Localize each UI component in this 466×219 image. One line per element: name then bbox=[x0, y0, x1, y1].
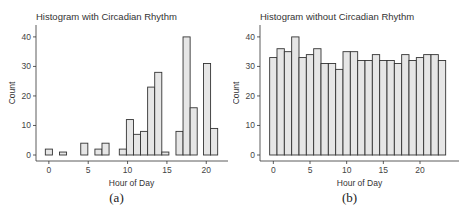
histogram-bar bbox=[299, 58, 306, 155]
y-tick-label: 10 bbox=[246, 120, 256, 130]
y-tick-label: 30 bbox=[246, 61, 256, 71]
x-tick-label: 0 bbox=[47, 165, 52, 175]
histogram-bar bbox=[394, 63, 401, 155]
histogram-bar bbox=[119, 149, 126, 155]
y-tick-label: 0 bbox=[26, 150, 31, 160]
histogram-bar bbox=[102, 143, 109, 155]
histogram-bar bbox=[343, 52, 350, 155]
y-tick-label: 20 bbox=[22, 91, 32, 101]
x-tick-label: 0 bbox=[271, 165, 276, 175]
x-tick-label: 5 bbox=[86, 165, 91, 175]
histogram-bar bbox=[284, 52, 291, 155]
y-tick-label: 10 bbox=[22, 120, 32, 130]
chart-title: Histogram without Circadian Rhythm bbox=[260, 11, 414, 22]
y-axis-label: Count bbox=[233, 81, 241, 104]
x-axis-label: Hour of Day bbox=[109, 178, 155, 188]
histogram-bar bbox=[59, 152, 66, 155]
histogram-bar bbox=[321, 63, 328, 155]
histogram-bar bbox=[155, 72, 162, 155]
histogram-bar bbox=[431, 55, 438, 155]
x-tick-label: 20 bbox=[415, 165, 425, 175]
y-axis-label: Count bbox=[7, 81, 17, 104]
histogram-bar bbox=[438, 61, 445, 155]
histogram-bar bbox=[306, 55, 313, 155]
chart-panel-a: Histogram with Circadian Rhythm010203040… bbox=[0, 0, 233, 219]
y-tick-label: 20 bbox=[246, 91, 256, 101]
histogram-bar bbox=[328, 63, 335, 155]
histogram-bar bbox=[81, 143, 88, 155]
histogram-bar bbox=[148, 87, 155, 155]
histogram-bar bbox=[211, 128, 218, 155]
y-tick-label: 40 bbox=[22, 32, 32, 42]
caption-b: (b) bbox=[233, 190, 466, 206]
histogram-bar bbox=[183, 37, 190, 155]
histogram-bar bbox=[141, 131, 148, 155]
histogram-bar bbox=[409, 61, 416, 155]
histogram-bar bbox=[176, 131, 183, 155]
histogram-bar bbox=[387, 61, 394, 155]
x-tick-label: 10 bbox=[123, 165, 133, 175]
histogram-without-circadian-chart: Histogram without Circadian Rhythm010203… bbox=[233, 0, 466, 190]
histogram-with-circadian-chart: Histogram with Circadian Rhythm010203040… bbox=[0, 0, 233, 190]
histogram-bar bbox=[292, 37, 299, 155]
y-tick-label: 40 bbox=[246, 32, 256, 42]
histogram-bar bbox=[133, 134, 140, 155]
x-axis-label: Hour of Day bbox=[337, 178, 383, 188]
histogram-bar bbox=[204, 63, 211, 155]
x-tick-label: 10 bbox=[342, 165, 352, 175]
histogram-bar bbox=[162, 152, 169, 155]
histogram-bar bbox=[416, 58, 423, 155]
y-tick-label: 0 bbox=[250, 150, 255, 160]
histogram-bar bbox=[95, 149, 102, 155]
histogram-bar bbox=[424, 55, 431, 155]
histogram-bar bbox=[358, 61, 365, 155]
histogram-bar bbox=[190, 108, 197, 155]
y-tick-label: 30 bbox=[22, 61, 32, 71]
x-tick-label: 15 bbox=[162, 165, 172, 175]
caption-a: (a) bbox=[0, 190, 233, 206]
x-tick-label: 5 bbox=[308, 165, 313, 175]
histogram-bar bbox=[365, 61, 372, 155]
histogram-bar bbox=[380, 61, 387, 155]
histogram-bar bbox=[270, 58, 277, 155]
chart-panel-b: Histogram without Circadian Rhythm010203… bbox=[233, 0, 466, 219]
histogram-bar bbox=[126, 120, 133, 155]
chart-title: Histogram with Circadian Rhythm bbox=[36, 11, 177, 22]
histogram-bar bbox=[372, 55, 379, 155]
histogram-bar bbox=[402, 55, 409, 155]
histogram-bar bbox=[350, 52, 357, 155]
histogram-bar bbox=[314, 49, 321, 155]
histogram-bar bbox=[45, 149, 52, 155]
histogram-bar bbox=[336, 69, 343, 155]
histogram-bar bbox=[277, 49, 284, 155]
x-tick-label: 15 bbox=[379, 165, 389, 175]
x-tick-label: 20 bbox=[202, 165, 212, 175]
